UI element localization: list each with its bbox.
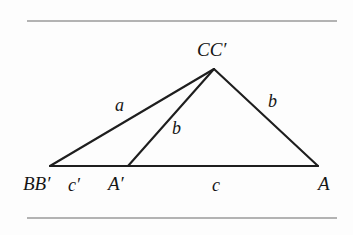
geometry-figure: CC′ BB′ A′ A a b b c′ c xyxy=(0,0,353,235)
side-label-a: a xyxy=(115,96,124,114)
vertex-label-A-prime: A′ xyxy=(108,174,124,193)
segment-b-CC-to-A xyxy=(214,69,318,166)
base-label-c-prime: c′ xyxy=(68,176,80,194)
segment-a-BB-to-CC xyxy=(50,69,214,166)
segment-b-Aprime-to-CC xyxy=(128,69,214,166)
vertex-label-A: A xyxy=(318,174,330,193)
vertex-label-BB-prime: BB′ xyxy=(23,174,50,193)
side-label-b-right: b xyxy=(268,92,277,110)
base-label-c: c xyxy=(212,176,220,194)
side-label-b-cevian: b xyxy=(172,119,181,137)
vertex-label-CC-prime: CC′ xyxy=(197,40,227,59)
